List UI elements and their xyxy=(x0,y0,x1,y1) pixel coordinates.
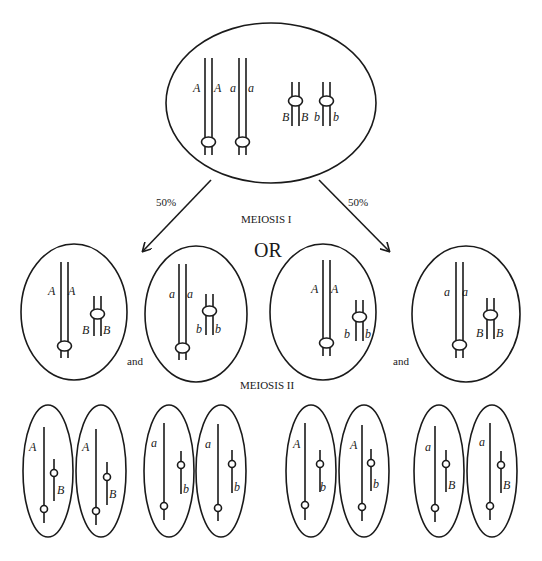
allele-label: A xyxy=(47,284,56,298)
allele-label: a xyxy=(248,81,254,95)
meiosis1-cell-4: a a B B xyxy=(412,246,520,382)
meiosis-2-label: MEIOSIS II xyxy=(240,379,294,391)
allele-label: A xyxy=(192,81,201,95)
allele-label: A xyxy=(310,282,319,296)
allele-label: A xyxy=(330,282,339,296)
and-label: and xyxy=(393,355,409,367)
meiosis2-cell-2: A B xyxy=(76,405,126,537)
allele-label: a xyxy=(187,287,193,301)
or-label: OR xyxy=(254,239,282,261)
meiosis1-cell-1: A A B B xyxy=(21,244,127,380)
allele-label: B xyxy=(301,110,309,124)
allele-label: A xyxy=(28,440,37,454)
allele-label: b xyxy=(314,110,320,124)
allele-label: b xyxy=(320,480,326,494)
allele-label: A xyxy=(292,437,301,451)
allele-label: B xyxy=(476,326,484,340)
allele-label: A xyxy=(349,438,358,452)
allele-label: B xyxy=(448,478,456,492)
allele-label: B xyxy=(282,110,290,124)
allele-label: a xyxy=(479,435,485,449)
percent-right-label: 50% xyxy=(348,196,368,208)
allele-label: b xyxy=(373,477,379,491)
parent-cell: A A a a B B b b xyxy=(166,23,376,183)
meiosis2-cell-8: a B xyxy=(467,405,517,537)
meiosis2-cell-1: A B xyxy=(23,405,73,537)
allele-label: a xyxy=(444,285,450,299)
allele-label: b xyxy=(183,482,189,496)
allele-label: A xyxy=(213,81,222,95)
allele-label: A xyxy=(67,284,76,298)
arrow-left xyxy=(143,180,211,251)
arrow-right xyxy=(319,180,389,251)
allele-label: B xyxy=(103,323,111,337)
allele-label: B xyxy=(109,487,117,501)
meiosis2-cell-7: a B xyxy=(414,405,464,537)
allele-label: A xyxy=(81,440,90,454)
allele-label: B xyxy=(82,323,90,337)
allele-label: a xyxy=(205,437,211,451)
allele-label: B xyxy=(496,326,504,340)
and-label: and xyxy=(127,355,143,367)
allele-label: a xyxy=(151,436,157,450)
allele-label: a xyxy=(462,285,468,299)
percent-left-label: 50% xyxy=(156,196,176,208)
allele-label: a xyxy=(230,81,236,95)
allele-label: B xyxy=(57,483,65,497)
meiosis2-cell-5: A b xyxy=(286,405,336,537)
meiosis1-cell-3: A A b b xyxy=(270,244,376,380)
allele-label: b xyxy=(196,322,202,336)
allele-label: a xyxy=(425,440,431,454)
allele-label: a xyxy=(169,287,175,301)
allele-label: b xyxy=(215,322,221,336)
allele-label: B xyxy=(503,478,511,492)
allele-label: b xyxy=(365,327,371,341)
meiosis2-cell-3: a b xyxy=(144,405,194,537)
allele-label: b xyxy=(344,327,350,341)
meiosis-diagram: A A a a B B b b 50% 50% MEIOSIS I OR A A xyxy=(0,0,542,561)
meiosis2-cell-6: A b xyxy=(339,405,389,537)
meiosis-1-label: MEIOSIS I xyxy=(241,213,292,225)
meiosis1-cell-2: a a b b xyxy=(145,246,247,382)
meiosis2-cell-4: a b xyxy=(196,405,246,537)
allele-label: b xyxy=(333,110,339,124)
allele-label: b xyxy=(234,480,240,494)
